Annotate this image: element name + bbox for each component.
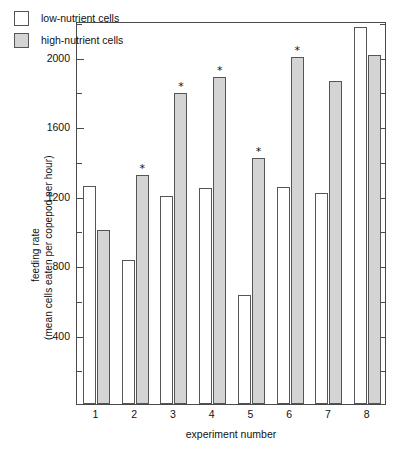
- legend-swatch-low-nutrient: [14, 11, 29, 26]
- x-axis-tick-label-6: 6: [277, 408, 301, 420]
- plot-area: *****: [76, 22, 386, 405]
- bar-low-nutrient-exp-7: [315, 193, 328, 404]
- y-axis-tick-label: 800: [36, 260, 70, 272]
- y-axis-tick-label: 2000: [36, 52, 70, 64]
- legend-swatch-high-nutrient: [14, 33, 29, 48]
- bar-series-container: *****: [77, 23, 385, 404]
- bar-low-nutrient-exp-2: [122, 260, 135, 404]
- significance-marker-exp-4: *: [213, 65, 226, 76]
- bar-high-nutrient-exp-5: [252, 158, 265, 404]
- legend-label-high-nutrient: high-nutrient cells: [41, 34, 123, 46]
- bar-high-nutrient-exp-4: [213, 77, 226, 404]
- bar-high-nutrient-exp-7: [329, 81, 342, 404]
- x-axis-tick-label-8: 8: [355, 408, 379, 420]
- legend-item-low-nutrient: low-nutrient cells: [14, 8, 184, 28]
- y-axis-tick-label: 1600: [36, 121, 70, 133]
- bar-low-nutrient-exp-5: [238, 295, 251, 404]
- significance-marker-exp-6: *: [291, 45, 304, 56]
- bar-low-nutrient-exp-1: [83, 186, 96, 404]
- bar-low-nutrient-exp-4: [199, 188, 212, 404]
- significance-marker-exp-3: *: [174, 81, 187, 92]
- x-axis-tick-labels: 12345678: [76, 408, 386, 424]
- bar-high-nutrient-exp-6: [291, 57, 304, 404]
- feeding-rate-bar-chart: feeding rate (mean cells eaten per copep…: [0, 0, 410, 462]
- bar-low-nutrient-exp-3: [160, 196, 173, 404]
- significance-marker-exp-2: *: [136, 163, 149, 174]
- chart-legend: low-nutrient cells high-nutrient cells: [14, 8, 184, 52]
- bar-high-nutrient-exp-1: [97, 230, 110, 404]
- x-axis-tick-label-4: 4: [200, 408, 224, 420]
- legend-label-low-nutrient: low-nutrient cells: [41, 12, 119, 24]
- bar-high-nutrient-exp-2: [136, 175, 149, 404]
- x-axis-tick-label-7: 7: [316, 408, 340, 420]
- bar-low-nutrient-exp-6: [277, 187, 290, 404]
- legend-item-high-nutrient: high-nutrient cells: [14, 30, 184, 50]
- x-axis-tick-label-2: 2: [122, 408, 146, 420]
- y-axis-tick-label: 1200: [36, 191, 70, 203]
- x-axis-tick-label-5: 5: [238, 408, 262, 420]
- x-axis-tick-label-3: 3: [161, 408, 185, 420]
- bar-high-nutrient-exp-3: [174, 93, 187, 404]
- x-axis-tick-label-1: 1: [83, 408, 107, 420]
- x-axis-title: experiment number: [76, 428, 386, 440]
- significance-marker-exp-5: *: [252, 146, 265, 157]
- bar-low-nutrient-exp-8: [354, 27, 367, 404]
- bar-high-nutrient-exp-8: [368, 55, 381, 404]
- y-axis-tick-labels: 400800120016002000: [32, 0, 70, 462]
- y-axis-tick-label: 400: [36, 330, 70, 342]
